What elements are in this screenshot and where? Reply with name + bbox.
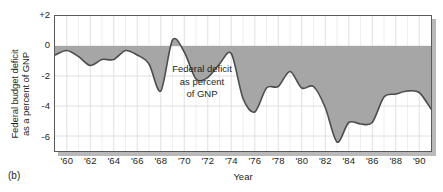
x-tick-label: '90 bbox=[404, 155, 434, 167]
y-tick-label: -4 bbox=[28, 101, 50, 111]
y-tick-label: -2 bbox=[28, 71, 50, 81]
annotation-line3: of GNP bbox=[146, 88, 258, 101]
annotation-line2: as percent bbox=[146, 76, 258, 89]
figure-panel-b: Federal budget deficit as a percent of G… bbox=[0, 0, 443, 192]
chart-annotation: Federal deficit as percent of GNP bbox=[146, 63, 258, 101]
y-tick-label: +2 bbox=[28, 10, 50, 20]
y-tick-label: -6 bbox=[28, 132, 50, 142]
y-axis-tick-labels: +2 0 -2 -4 -6 bbox=[24, 0, 50, 192]
panel-label: (b) bbox=[8, 170, 20, 181]
x-axis-title: Year bbox=[54, 171, 432, 182]
x-axis-tick-labels: '60'62'64'66'68'70'72'74'76'78'80'82'84'… bbox=[54, 155, 432, 171]
y-tick-label: 0 bbox=[28, 40, 50, 50]
y-axis-title-line1: Federal budget deficit bbox=[9, 49, 21, 138]
annotation-line1: Federal deficit bbox=[146, 63, 258, 76]
